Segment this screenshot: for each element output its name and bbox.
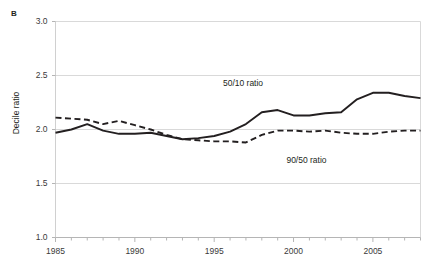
series-line-1 — [56, 93, 421, 139]
plot-area — [0, 0, 434, 275]
chart-container: B Decile ratio 1.01.52.02.53.0 198519901… — [0, 0, 434, 275]
series-line-2 — [56, 118, 421, 143]
